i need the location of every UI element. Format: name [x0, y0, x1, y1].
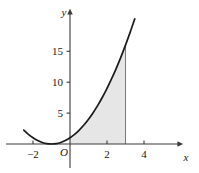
x-tick-label-1: 2	[104, 148, 110, 160]
y-tick-label-1: 10	[52, 76, 64, 88]
graph-figure: −224 51015 x y O	[0, 0, 199, 173]
shaded-area-under-curve	[70, 45, 126, 144]
x-tick-label-0: −2	[27, 148, 39, 160]
y-axis-label: y	[61, 6, 67, 18]
y-axis-tick-labels: 51015	[52, 45, 64, 119]
x-tick-label-2: 4	[141, 148, 147, 160]
x-axis-tick-labels: −224	[27, 148, 147, 160]
x-axis-label: x	[183, 151, 189, 163]
plot-canvas: −224 51015 x y O	[0, 0, 199, 173]
y-tick-label-2: 15	[52, 45, 64, 57]
origin-label: O	[60, 146, 68, 158]
y-tick-label-0: 5	[58, 107, 64, 119]
